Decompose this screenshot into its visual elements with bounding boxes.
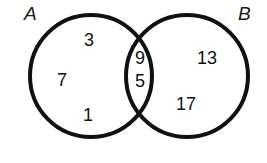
- element-a-only-1: 3: [84, 31, 94, 49]
- venn-diagram-figure: A B 3 7 1 9 5 13 17: [0, 0, 267, 163]
- venn-circles-svg: [0, 0, 267, 163]
- element-a-only-2: 7: [57, 71, 67, 89]
- element-a-only-3: 1: [83, 106, 93, 124]
- element-b-only-2: 17: [176, 95, 196, 113]
- element-b-only-1: 13: [197, 49, 217, 67]
- set-b-label: B: [238, 4, 251, 23]
- element-intersection-2: 5: [135, 72, 145, 90]
- element-intersection-1: 9: [135, 49, 145, 67]
- set-a-label: A: [24, 4, 37, 23]
